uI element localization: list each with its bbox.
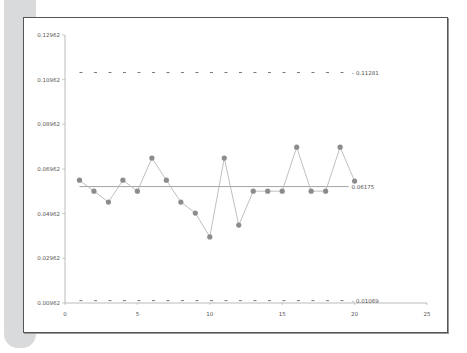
reference-label-cl: 0.06175: [352, 184, 375, 190]
y-tick-label: 0.12962: [37, 32, 60, 38]
x-tick-label: 15: [279, 311, 286, 317]
data-point: [323, 189, 328, 194]
data-point: [77, 178, 82, 183]
data-point: [120, 178, 125, 183]
x-tick-label: 0: [63, 311, 67, 317]
data-point: [280, 189, 285, 194]
x-tick-label: 20: [351, 311, 358, 317]
data-point: [91, 189, 96, 194]
y-tick-label: 0.06962: [37, 166, 60, 172]
data-point: [236, 223, 241, 228]
data-point: [309, 189, 314, 194]
x-tick-label: 5: [136, 311, 140, 317]
data-point: [222, 156, 227, 161]
data-point: [251, 189, 256, 194]
y-tick-label: 0.10962: [37, 77, 60, 83]
y-tick-label: 0.00962: [37, 300, 60, 306]
data-point: [193, 210, 198, 215]
data-point: [294, 145, 299, 150]
x-tick-label: 25: [424, 311, 431, 317]
reference-label-ucl: – 0.11281: [352, 70, 379, 76]
data-point: [265, 189, 270, 194]
data-point: [207, 234, 212, 239]
data-point: [149, 156, 154, 161]
x-tick-label: 10: [206, 311, 213, 317]
data-point: [178, 199, 183, 204]
y-tick-label: 0.04962: [37, 211, 60, 217]
data-point: [164, 178, 169, 183]
data-point: [135, 189, 140, 194]
control-chart: 0.129620.109620.089620.069620.049620.029…: [0, 0, 467, 353]
y-tick-label: 0.02962: [37, 255, 60, 261]
data-point: [106, 199, 111, 204]
reference-label-lcl: – 0.01069: [352, 298, 380, 304]
data-point: [352, 179, 357, 184]
data-point: [338, 145, 343, 150]
y-tick-label: 0.08962: [37, 121, 60, 127]
